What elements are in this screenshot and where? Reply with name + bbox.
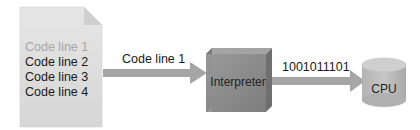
code-line-2: Code line 2: [25, 55, 88, 70]
arrow2-label: 1001011101: [282, 60, 350, 74]
code-line-3: Code line 3: [25, 70, 88, 85]
cpu-label: CPU: [362, 82, 406, 96]
code-line-1: Code line 1: [25, 40, 88, 55]
interpreter-label: Interpreter: [206, 75, 270, 89]
code-line-4: Code line 4: [25, 85, 88, 100]
document-code-lines: Code line 1 Code line 2 Code line 3 Code…: [25, 40, 88, 100]
arrow1-label: Code line 1: [122, 52, 185, 66]
